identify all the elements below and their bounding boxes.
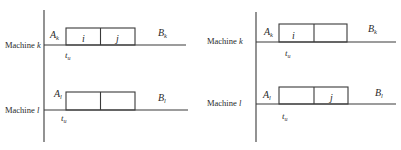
machine-l-label: Machine l: [207, 98, 242, 108]
job-i-label: i: [82, 33, 85, 44]
time-label-t-u: tu: [285, 48, 291, 59]
start-label-A-k: Ak: [49, 29, 59, 41]
start-label-A-k: Ak: [263, 26, 273, 38]
time-label-t-u: tu: [61, 113, 67, 124]
end-label-B-l: Bl: [375, 87, 383, 99]
right-diagram: Machine k Ak i Bk tu Machine l Al j Bl t…: [207, 12, 396, 142]
start-label-A-l: Al: [262, 89, 271, 101]
end-label-B-k: Bk: [158, 27, 167, 39]
machine-k-schedule-block: [279, 24, 347, 42]
end-label-B-l: Bl: [158, 92, 166, 104]
left-machine-k-row: Machine k Ak i j Bk tu: [5, 27, 186, 61]
job-i-label: i: [292, 30, 295, 41]
left-machine-l-row: Machine l Al Bl tu: [5, 88, 188, 124]
left-diagram: Machine k Ak i j Bk tu Machine l Al Bl t…: [5, 10, 188, 142]
time-label-t-u: tu: [282, 111, 288, 122]
right-machine-k-row: Machine k Ak i Bk tu: [207, 23, 396, 59]
job-j-label: j: [114, 33, 119, 44]
machine-l-label: Machine l: [5, 105, 40, 115]
gantt-comparison-diagram: Machine k Ak i j Bk tu Machine l Al Bl t…: [0, 0, 401, 150]
start-label-A-l: Al: [53, 88, 62, 100]
right-machine-l-row: Machine l Al j Bl tu: [207, 87, 396, 122]
time-label-t-u: tu: [65, 50, 71, 61]
machine-k-label: Machine k: [5, 40, 41, 50]
end-label-B-k: Bk: [368, 23, 377, 35]
machine-k-label: Machine k: [207, 36, 243, 46]
job-j-label: j: [328, 92, 333, 103]
